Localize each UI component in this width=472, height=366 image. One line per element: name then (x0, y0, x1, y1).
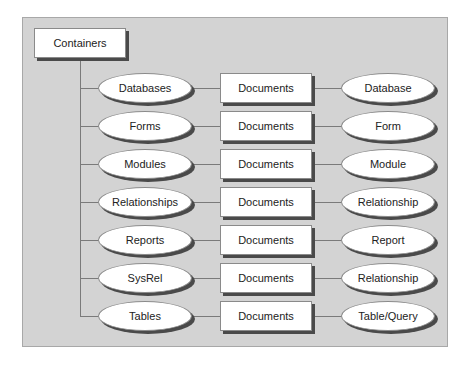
documents-node: Documents (220, 187, 312, 217)
container-label: SysRel (128, 272, 163, 284)
container-label: Relationships (112, 196, 178, 208)
documents-node: Documents (220, 263, 312, 293)
object-node: Database (341, 73, 435, 103)
container-node: Modules (98, 149, 192, 179)
documents-label: Documents (238, 158, 294, 170)
object-node: Report (341, 225, 435, 255)
container-label: Forms (129, 120, 160, 132)
container-label: Tables (129, 310, 161, 322)
connector-line (311, 240, 343, 241)
branch-line (80, 126, 100, 127)
object-label: Module (370, 158, 406, 170)
container-node: Reports (98, 225, 192, 255)
connector-line (190, 202, 222, 203)
object-label: Relationship (358, 196, 419, 208)
documents-node: Documents (220, 73, 312, 103)
documents-label: Documents (238, 310, 294, 322)
container-label: Reports (126, 234, 165, 246)
connector-line (190, 278, 222, 279)
branch-line (80, 202, 100, 203)
connector-line (311, 164, 343, 165)
connector-line (190, 164, 222, 165)
object-node: Form (341, 111, 435, 141)
connector-line (311, 202, 343, 203)
container-node: Tables (98, 301, 192, 331)
documents-label: Documents (238, 234, 294, 246)
container-node: SysRel (98, 263, 192, 293)
object-node: Module (341, 149, 435, 179)
object-label: Relationship (358, 272, 419, 284)
container-label: Modules (124, 158, 166, 170)
connector-line (190, 316, 222, 317)
containers-node: Containers (34, 28, 126, 58)
connector-line (311, 278, 343, 279)
branch-line (80, 240, 100, 241)
documents-node: Documents (220, 149, 312, 179)
documents-node: Documents (220, 225, 312, 255)
object-label: Table/Query (358, 310, 417, 322)
branch-line (80, 88, 100, 89)
connector-line (311, 316, 343, 317)
object-label: Form (375, 120, 401, 132)
container-node: Relationships (98, 187, 192, 217)
object-node: Relationship (341, 187, 435, 217)
connector-line (190, 240, 222, 241)
object-label: Database (364, 82, 411, 94)
documents-label: Documents (238, 196, 294, 208)
connector-line (311, 126, 343, 127)
documents-label: Documents (238, 272, 294, 284)
containers-label: Containers (53, 37, 106, 49)
container-node: Forms (98, 111, 192, 141)
documents-label: Documents (238, 120, 294, 132)
connector-line (190, 126, 222, 127)
container-node: Databases (98, 73, 192, 103)
documents-node: Documents (220, 301, 312, 331)
container-label: Databases (119, 82, 172, 94)
connector-line (190, 88, 222, 89)
documents-label: Documents (238, 82, 294, 94)
connector-line (311, 88, 343, 89)
branch-line (80, 316, 100, 317)
documents-node: Documents (220, 111, 312, 141)
diagram-panel (22, 17, 448, 347)
object-node: Relationship (341, 263, 435, 293)
object-label: Report (371, 234, 404, 246)
branch-line (80, 164, 100, 165)
branch-line (80, 278, 100, 279)
object-node: Table/Query (341, 301, 435, 331)
